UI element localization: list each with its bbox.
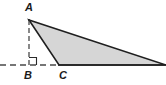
vertex-label-b: B — [24, 70, 32, 81]
geometry-figure: A B C — [0, 0, 166, 85]
shaded-triangle — [29, 20, 166, 65]
vertex-label-a: A — [25, 2, 33, 13]
vertex-point-a — [28, 19, 30, 21]
vertex-label-c: C — [59, 70, 67, 81]
right-angle-marker-icon — [29, 58, 37, 66]
